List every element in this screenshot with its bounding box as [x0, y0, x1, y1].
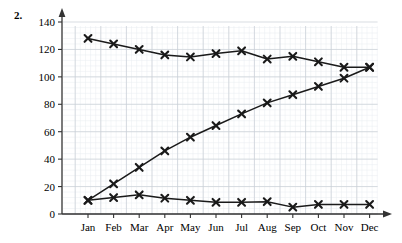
- y-tick-label: 80: [44, 98, 56, 110]
- x-tick-label-jan: Jan: [81, 221, 96, 233]
- y-axis-tick-labels: 020406080100120140: [39, 16, 56, 220]
- y-tick-label: 140: [39, 16, 56, 28]
- x-tick-label-mar: Mar: [130, 221, 149, 233]
- x-tick-label-feb: Feb: [105, 221, 122, 233]
- x-tick-label-jul: Jul: [235, 221, 248, 233]
- x-tick-label-jun: Jun: [208, 221, 224, 233]
- x-tick-label-nov: Nov: [335, 221, 354, 233]
- y-tick-label: 40: [44, 153, 56, 165]
- x-tick-label-oct: Oct: [310, 221, 326, 233]
- x-tick-label-apr: Apr: [156, 221, 173, 233]
- y-tick-label: 100: [39, 71, 56, 83]
- chart-page: 2. 020406080100120140 JanFebMarAprMayJun…: [0, 0, 402, 243]
- y-tick-label: 0: [50, 208, 56, 220]
- x-tick-label-dec: Dec: [361, 221, 379, 233]
- x-tick-label-may: May: [180, 221, 201, 233]
- x-tick-label-aug: Aug: [258, 221, 277, 233]
- line-chart: 020406080100120140 JanFebMarAprMayJunJul…: [0, 0, 402, 243]
- y-tick-label: 60: [44, 126, 56, 138]
- y-tick-label: 20: [44, 181, 56, 193]
- x-axis-tick-labels: JanFebMarAprMayJunJulAugSepOctNovDec: [81, 221, 379, 233]
- y-tick-label: 120: [39, 43, 56, 55]
- x-tick-label-sep: Sep: [285, 221, 302, 233]
